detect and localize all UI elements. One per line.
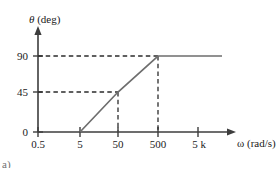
x-tick-label-500: 500: [150, 139, 167, 150]
x-tick-label-50: 50: [113, 139, 124, 150]
x-axis: [38, 128, 236, 135]
x-axis-title: ω (rad/s): [237, 138, 276, 149]
phase-plot-figure: θ (deg) ω (rad/s) 0 45 90 0.5 5 50 500 5…: [0, 0, 276, 171]
y-axis: [34, 26, 41, 132]
guide-lines: [38, 56, 158, 131]
y-axis-title: θ (deg): [29, 14, 60, 25]
y-tick-label-0: 0: [8, 127, 28, 138]
x-tick-label-0-5: 0.5: [31, 139, 45, 150]
x-tick-label-5k: 5 k: [192, 139, 206, 150]
figure-caption-partial: a): [2, 159, 11, 168]
y-tick-label-90: 90: [8, 51, 28, 62]
x-tick-label-5: 5: [77, 139, 83, 150]
phase-curve: [80, 56, 222, 132]
y-tick-label-45: 45: [8, 87, 28, 98]
